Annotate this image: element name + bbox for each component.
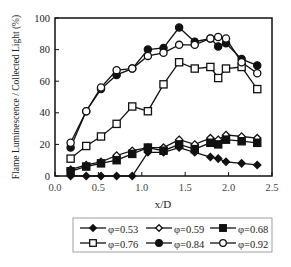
x-tick-label: 1.0 (135, 182, 148, 193)
filled-square-marker-icon (222, 136, 229, 143)
chart: Flame Luminescence / Collected Light (%)… (0, 0, 291, 267)
open-square-marker-icon (191, 65, 198, 72)
open-square-marker-icon (67, 155, 74, 162)
open-square-marker-icon (222, 65, 229, 72)
filled-square-marker-icon (67, 168, 74, 175)
legend-label: φ=0.68 (238, 224, 268, 235)
open-circle-marker-icon (97, 84, 104, 91)
filled-circle-marker-icon (215, 43, 222, 50)
open-square-marker-icon (254, 86, 261, 93)
y-axis-label: Flame Luminescence / Collected Light (%) (11, 15, 22, 179)
open-square-marker-icon (215, 74, 222, 81)
open-circle-marker-icon (222, 35, 229, 42)
filled-square-marker-icon (215, 141, 222, 148)
open-square-marker-icon (160, 81, 167, 88)
legend-label: φ=0.53 (108, 224, 138, 235)
filled-square-marker-icon (220, 225, 227, 232)
open-square-marker-icon (97, 133, 104, 140)
open-circle-marker-icon (254, 70, 261, 77)
open-square-marker-icon (113, 120, 120, 127)
y-tick-label: 80 (40, 44, 51, 55)
open-circle-marker-icon (215, 33, 222, 40)
filled-square-marker-icon (207, 139, 214, 146)
filled-square-marker-icon (113, 157, 120, 164)
filled-circle-marker-icon (156, 240, 163, 247)
filled-square-marker-icon (176, 141, 183, 148)
open-square-marker-icon (207, 63, 214, 70)
legend-label: φ=0.76 (108, 239, 138, 250)
open-circle-marker-icon (144, 52, 151, 59)
y-tick-label: 60 (40, 76, 51, 87)
open-circle-marker-icon (129, 65, 136, 72)
open-circle-marker-icon (238, 59, 245, 66)
open-circle-marker-icon (191, 41, 198, 48)
filled-circle-marker-icon (176, 24, 183, 31)
x-tick-label: 2.5 (265, 182, 278, 193)
open-square-marker-icon (144, 108, 151, 115)
legend-label: φ=0.84 (174, 239, 205, 250)
legend-label: φ=0.59 (174, 224, 204, 235)
x-tick-label: 0.5 (92, 182, 105, 193)
y-tick-label: 20 (40, 139, 51, 150)
open-square-marker-icon (176, 59, 183, 66)
open-circle-marker-icon (207, 35, 214, 42)
filled-circle-marker-icon (254, 62, 261, 69)
open-circle-marker-icon (113, 67, 120, 74)
y-tick-label: 0 (45, 171, 50, 182)
open-circle-marker-icon (176, 41, 183, 48)
x-tick-label: 0.0 (48, 182, 61, 193)
open-square-marker-icon (129, 103, 136, 110)
y-tick-label: 40 (40, 107, 51, 118)
svg-text:Flame Luminescence / Collected: Flame Luminescence / Collected Light (%) (11, 15, 22, 179)
open-circle-marker-icon (67, 139, 74, 146)
filled-square-marker-icon (83, 163, 90, 170)
filled-square-marker-icon (144, 144, 151, 151)
y-tick-label: 100 (34, 13, 50, 24)
open-square-marker-icon (90, 240, 97, 247)
open-circle-marker-icon (220, 240, 227, 247)
x-tick-label: 2.0 (222, 182, 235, 193)
filled-square-marker-icon (129, 150, 136, 157)
filled-square-marker-icon (254, 139, 261, 146)
open-circle-marker-icon (160, 49, 167, 56)
filled-square-marker-icon (238, 138, 245, 145)
filled-square-marker-icon (97, 160, 104, 167)
x-tick-label: 1.5 (179, 182, 192, 193)
open-square-marker-icon (83, 142, 90, 149)
open-circle-marker-icon (83, 108, 90, 115)
filled-square-marker-icon (191, 146, 198, 153)
filled-square-marker-icon (160, 147, 167, 154)
x-axis-label: x/D (155, 198, 172, 210)
legend-label: φ=0.92 (238, 239, 268, 250)
legend: φ=0.53φ=0.59φ=0.68φ=0.76φ=0.84φ=0.92 (73, 218, 272, 252)
